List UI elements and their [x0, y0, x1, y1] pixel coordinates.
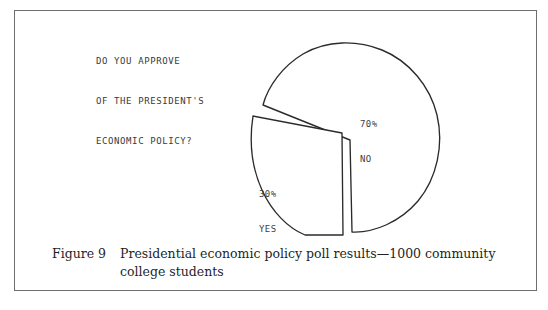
figure-caption: Figure 9 Presidential economic policy po…: [52, 245, 522, 281]
figure-caption-row: Figure 9 Presidential economic policy po…: [52, 245, 522, 281]
pie-label-yes-answer: YES: [259, 224, 282, 236]
pie-label-no-percent: 70%: [360, 119, 383, 131]
figure-caption-text: Presidential economic policy poll result…: [120, 245, 522, 281]
pie-label-no-answer: NO: [360, 154, 383, 166]
figure-page: DO YOU APPROVE OF THE PRESIDENT'S ECONOM…: [0, 0, 548, 310]
pie-label-yes-percent: 30%: [259, 189, 282, 201]
figure-number: Figure 9: [52, 245, 120, 263]
pie-label-no: 70% NO: [360, 96, 383, 188]
